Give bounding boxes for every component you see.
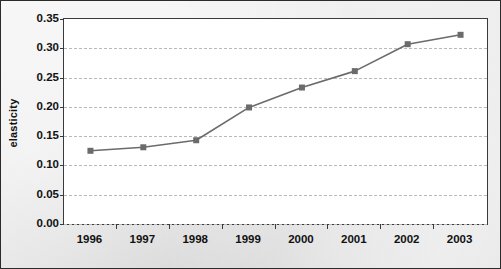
x-axis-tick-mark — [275, 224, 276, 229]
x-axis-tick-mark — [169, 224, 170, 229]
data-series-elasticity: 1996: 0.1251997: 0.1311998: 0.1431999: 0… — [64, 19, 487, 224]
y-axis-title-label: elasticity — [7, 98, 19, 147]
data-point-marker: 2000: 0.233 — [299, 85, 305, 91]
y-axis-tick-label: 0.00 — [37, 217, 59, 229]
data-point-marker: 1999: 0.199 — [246, 104, 252, 110]
data-point-marker: 2002: 0.307 — [405, 41, 411, 47]
plot-area: 1996: 0.1251997: 0.1311998: 0.1431999: 0… — [63, 18, 488, 225]
x-axis-tick-marks — [63, 224, 486, 229]
y-axis-tick-label: 0.30 — [37, 41, 59, 53]
y-axis-tick-labels: 0.000.050.100.150.200.250.300.35 — [19, 18, 59, 223]
x-axis-tick-label: 2000 — [288, 233, 314, 245]
data-point-marker: 1997: 0.131 — [140, 144, 146, 150]
data-point-marker: 2001: 0.261 — [352, 68, 358, 74]
x-axis-tick-mark — [116, 224, 117, 229]
y-axis-tick-label: 0.35 — [37, 12, 59, 24]
x-axis-tick-label: 2002 — [394, 233, 420, 245]
y-axis-tick-label: 0.25 — [37, 71, 59, 83]
x-axis-tick-labels: 19961997199819992000200120022003 — [63, 233, 486, 253]
x-axis-tick-label: 1997 — [130, 233, 156, 245]
x-axis-tick-mark — [327, 224, 328, 229]
data-point-marker: 1996: 0.125 — [87, 148, 93, 154]
series-line — [90, 35, 460, 151]
x-axis-tick-label: 1996 — [77, 233, 103, 245]
x-axis-tick-label: 1999 — [235, 233, 261, 245]
y-axis-tick-label: 0.05 — [37, 188, 59, 200]
x-axis-tick-mark — [433, 224, 434, 229]
chart-figure: elasticity 0.000.050.100.150.200.250.300… — [0, 0, 501, 269]
x-axis-tick-label: 2003 — [447, 233, 473, 245]
y-axis-tick-label: 0.10 — [37, 158, 59, 170]
y-axis-tick-label: 0.15 — [37, 129, 59, 141]
x-axis-tick-label: 1998 — [182, 233, 208, 245]
x-axis-tick-label: 2001 — [341, 233, 367, 245]
x-axis-tick-mark — [380, 224, 381, 229]
data-point-marker: 2003: 0.323 — [458, 32, 464, 38]
data-point-marker: 1998: 0.143 — [193, 137, 199, 143]
x-axis-tick-mark — [222, 224, 223, 229]
y-axis-tick-label: 0.20 — [37, 100, 59, 112]
